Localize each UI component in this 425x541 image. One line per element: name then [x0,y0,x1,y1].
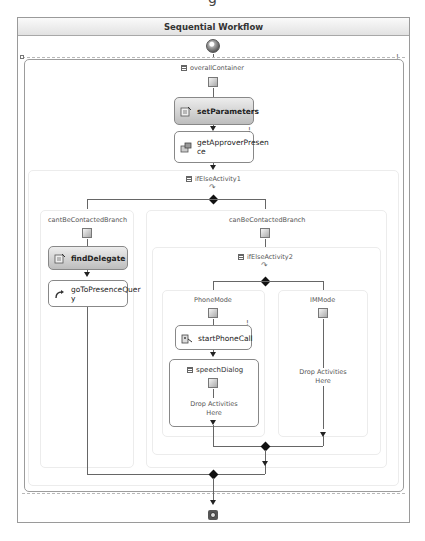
code-icon [54,253,66,264]
connector [213,478,214,501]
collapse-icon[interactable] [238,254,244,260]
speechDialog-label: speechDialog [187,366,243,374]
connector [213,425,214,446]
arrow-icon [262,461,268,466]
drop-activities-hint: Drop ActivitiesHere [179,400,249,418]
container-warning-icon[interactable]: ! [396,53,399,61]
branch-label: cantBeContactedBranch [48,216,127,224]
connector [87,199,88,209]
ifelse2-label: ifElseActivity2 [238,253,293,261]
activity-startPhoneCall[interactable]: startPhoneCall [175,325,252,350]
ifelse-icon: ↷ [261,261,268,270]
drop-target-icon[interactable] [82,228,92,238]
branch-label: PhoneMode [194,296,232,304]
drop-target-icon[interactable] [318,308,328,318]
drop-activities-hint: Drop ActivitiesHere [288,368,358,386]
drop-target-icon[interactable] [208,308,218,318]
workflow-end-icon [208,510,218,520]
code-icon [180,106,192,117]
workflow-title: Sequential Workflow [18,18,409,36]
connector [213,281,214,290]
collapse-icon[interactable] [181,65,187,71]
goto-icon [54,289,66,300]
workflow-start-icon [206,39,220,53]
connector [87,239,88,246]
phone-icon [181,333,193,344]
header-fragment: g [0,0,425,6]
warning-icon[interactable]: ! [246,319,249,327]
collapse-icon[interactable] [187,367,193,373]
arrow-icon [210,352,216,357]
activity-label: goToPresenceQuery [71,285,141,303]
ifelse-icon: ↷ [209,183,216,192]
connector [265,199,266,209]
activity-getApproverPresence[interactable]: getApproverPresence [174,131,254,163]
activity-label: getApproverPresence [197,138,269,156]
connector [213,88,214,97]
arrow-icon [84,272,90,277]
ifelse1-label: ifElseActivity1 [186,175,241,183]
connector [213,389,214,398]
connector [323,281,324,290]
branch-label: canBeContactedBranch [229,216,305,224]
activity-label: setParameters [197,107,259,116]
arrow-icon [210,500,216,505]
invoke-icon [180,142,192,153]
connector [87,307,88,474]
drop-target-icon[interactable] [208,77,218,87]
drop-target-icon[interactable] [260,228,270,238]
activity-label: startPhoneCall [198,334,253,343]
connector [87,199,265,200]
connector [213,281,323,282]
connector [87,474,265,475]
selection-handle[interactable] [20,55,24,59]
warning-icon[interactable]: ! [248,126,251,134]
overall-container-label: overallContainer [181,64,244,72]
activity-findDelegate[interactable]: findDelegate [48,246,128,270]
connector [323,436,324,446]
collapse-icon[interactable] [186,176,192,182]
activity-label: findDelegate [71,254,125,263]
branch-label: IMMode [310,296,335,304]
activity-setParameters[interactable]: setParameters [174,97,254,125]
activity-goToPresenceQuery[interactable]: goToPresenceQuery [48,280,128,307]
drop-target-icon[interactable] [208,378,218,388]
connector [265,239,266,247]
